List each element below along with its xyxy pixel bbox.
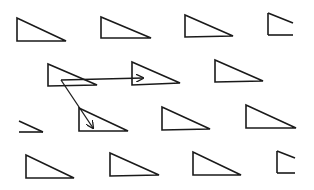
diagram-svg [0,0,314,190]
partial-triangles [19,13,295,173]
triangle-r1c2 [101,17,151,38]
vector-diagonal-arrow-icon [61,80,93,128]
triangle-r1c1 [17,18,66,41]
triangle-r4c2 [110,153,159,176]
triangle-r2c3 [215,60,263,82]
lattice-diagram [0,0,314,190]
triangle-r3c1 [79,108,128,131]
triangle-r2c2 [132,62,180,85]
triangle-r3c3 [246,105,296,128]
partial-triangle-r4c4-cut [277,151,295,173]
vector-horizontal-arrow-icon [61,78,143,80]
triangle-r1c3 [185,15,233,37]
partial-triangle-r3c0-cut [19,121,43,132]
triangle-r4c3 [193,152,241,175]
partial-triangle-r1c4-cut [268,13,293,35]
triangle-r3c2 [162,107,210,130]
triangle-r2c1 [48,64,97,86]
triangle-r4c1 [26,155,74,178]
triangle-lattice [17,15,296,178]
